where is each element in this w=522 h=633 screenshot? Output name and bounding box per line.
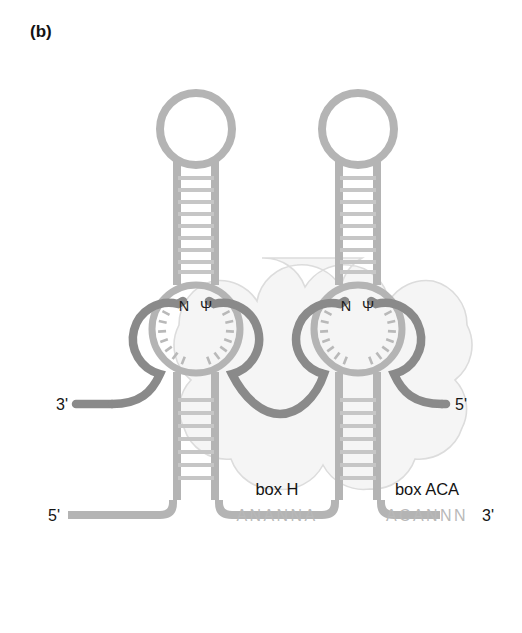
figure-root: (b) bbox=[0, 0, 522, 633]
left-apical-loop bbox=[160, 93, 232, 165]
snorna-5prime-label: 5' bbox=[48, 507, 60, 524]
right-pocket-target-base-label: N bbox=[341, 298, 351, 314]
box-h-label: box H bbox=[255, 480, 298, 498]
left-upper-stem-rungs bbox=[178, 178, 214, 272]
box-aca-label: box ACA bbox=[395, 480, 459, 498]
left-pocket-pseudouridine-label: Ψ bbox=[200, 298, 212, 314]
snorna-3prime-label: 3' bbox=[482, 507, 494, 524]
panel-label: (b) bbox=[30, 22, 52, 42]
snorna-diagram: N Ψ N Ψ 3' 5' 5' 3' box H ANANNA box ACA… bbox=[0, 0, 522, 633]
right-lower-stem-rungs bbox=[340, 400, 376, 478]
box-h-sequence: ANANNA bbox=[236, 507, 317, 524]
right-pocket-pseudouridine-label: Ψ bbox=[362, 298, 374, 314]
substrate-5prime-label: 5' bbox=[455, 396, 467, 413]
right-apical-loop bbox=[322, 93, 394, 165]
left-pocket-target-base-label: N bbox=[179, 298, 189, 314]
substrate-3prime-label: 3' bbox=[56, 396, 68, 413]
substrate-into-left-pocket bbox=[112, 301, 183, 404]
left-lower-stem-rungs bbox=[178, 400, 214, 478]
box-aca-sequence: ACANNN bbox=[386, 507, 468, 524]
